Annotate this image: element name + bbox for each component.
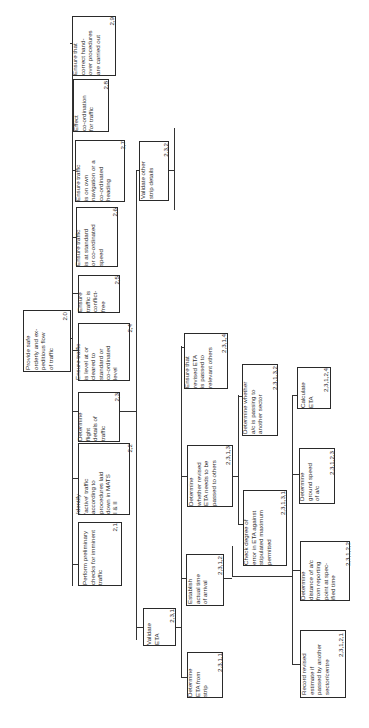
connector (72, 411, 78, 412)
connector (120, 411, 136, 412)
level3-stub (174, 128, 175, 210)
connector (181, 578, 186, 579)
connector (232, 576, 292, 577)
node-2-3-1-1: Determine ETA from strip 2,3,1,1 (187, 652, 223, 698)
node-2-3-1-2-1: Record revised estimate if passed by ano… (300, 630, 346, 698)
connector (292, 395, 297, 396)
node-2-0: Provide safe orderly and ex- peditious f… (23, 310, 71, 372)
level3-spine (181, 346, 182, 678)
connector (181, 347, 184, 348)
node-2-2: Identify 'active' traffic according to p… (78, 443, 130, 515)
connector (238, 524, 243, 525)
connector (292, 570, 300, 571)
connector (181, 476, 187, 477)
connector (292, 474, 299, 475)
node-2-3-1-2-2: Determine distance of a/c from reporting… (300, 541, 350, 601)
node-2-3: Determine flight details of traffic 2,3 (78, 392, 120, 442)
connector (70, 43, 73, 44)
connector (72, 564, 78, 565)
node-2-3-2: Validate other strip details 2,3,2 (139, 141, 169, 201)
node-2-3-1-2-4: Calculate ETA 2,3,1,2,4 (297, 367, 331, 409)
connector (292, 664, 300, 665)
connector (238, 396, 242, 397)
connector (224, 578, 232, 579)
node-2-4: Ensure traffic is level at or cleared to… (78, 323, 130, 381)
connector (136, 170, 139, 171)
node-label: Provide safe orderly and ex- peditious f… (25, 312, 55, 370)
node-2-3-1-2-3: Determine ground speed of a/c 2,3,1,2,3 (299, 448, 335, 504)
connector (72, 170, 75, 171)
node-2-8: Effect co-ordination for traffic 2,8 (73, 79, 109, 132)
node-2-3-1: Validate ETA 2,3,1 (143, 608, 176, 646)
node-2-7: Ensure traffic is on own navigation or a… (75, 140, 125, 202)
node-2-3-1-4: Ensure that revised ETA is passed to rel… (184, 333, 228, 389)
node-2-3-1-3-1: Check degree of error in ETA against sti… (243, 490, 287, 566)
connector (72, 478, 78, 479)
connector (72, 106, 73, 107)
connector (181, 677, 187, 678)
task-analysis-diagram: Provide safe orderly and ex- peditious f… (0, 0, 369, 728)
connector (72, 350, 78, 351)
connector (72, 237, 76, 238)
node-2-3-1-2: Establish actual time of arrival 2,3,1,2 (186, 554, 224, 606)
node-2-9: Ensure that correct hand- over procedure… (72, 16, 116, 76)
connector (136, 627, 143, 628)
level2-spine (136, 170, 137, 640)
node-2-3-1-3: Determine whether revised ETA needs to b… (187, 445, 233, 507)
node-2-1: Perform preliminary checks for imminent … (78, 522, 122, 586)
node-2-5: Ensure traffic is conflict- free 2,5 (78, 275, 120, 313)
node-2-6: Ensure traffic is at standard or co-ordi… (76, 207, 118, 267)
node-2-3-1-3-2: Determine whether a/c is passing to anot… (242, 364, 278, 436)
level4-spine-a (232, 546, 233, 576)
connector (72, 293, 78, 294)
